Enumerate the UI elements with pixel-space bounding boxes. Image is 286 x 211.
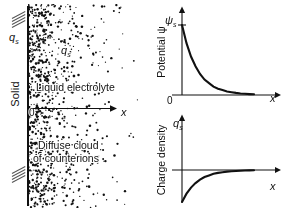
x-axis-arrow-icon — [33, 104, 117, 113]
potential-x-axis-label: x — [270, 92, 276, 104]
hatch-marks-top-icon — [12, 17, 27, 29]
left-panel-schematic: Solid qs qs Liquid electrolyte Diffuse c… — [0, 0, 140, 211]
potential-decay-curve — [182, 25, 254, 94]
charge-density-curve — [182, 170, 254, 202]
figure-electric-double-layer: Solid qs qs Liquid electrolyte Diffuse c… — [0, 0, 286, 211]
chart-potential: Potential ψ ψs 0 x — [142, 2, 286, 106]
chart-charge-density: Charge density qs x — [142, 106, 286, 211]
diffuse-cloud-label-line2: of counterions — [33, 152, 99, 164]
x-axis-label-schematic: x — [121, 106, 127, 118]
cloud-charge-label: qs — [61, 44, 71, 58]
diffuse-cloud-label-line1: Diffuse cloud — [38, 139, 99, 151]
potential-x-tick-zero: 0 — [167, 95, 173, 106]
potential-psis-label: ψs — [165, 14, 177, 28]
cloud-charge-subscript: s — [67, 51, 71, 58]
solid-label: Solid — [9, 71, 21, 117]
potential-psis-subscript: s — [173, 21, 177, 28]
charge-x-axis-label: x — [270, 180, 276, 192]
liquid-electrolyte-label: Liquid electrolyte — [36, 81, 115, 93]
potential-psis-symbol: ψ — [165, 14, 173, 26]
charge-x-axis-arrowhead — [275, 167, 281, 173]
hatch-marks-bottom-icon — [12, 172, 27, 184]
surface-charge-subscript: s — [15, 38, 19, 45]
charge-qs-subscript: s — [179, 124, 183, 131]
charge-qs-label: qs — [173, 117, 183, 131]
potential-y-axis-arrowhead — [179, 7, 185, 14]
surface-charge-label: qs — [9, 31, 19, 45]
charge-y-axis-title: Charge density — [155, 121, 167, 199]
